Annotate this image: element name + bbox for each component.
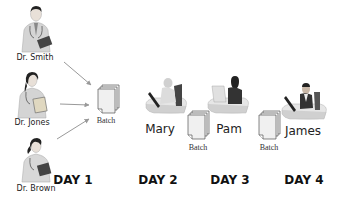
batch-label: Batch [97, 116, 116, 125]
worker-label: Pam [216, 122, 242, 136]
worker-label: Mary [145, 122, 175, 136]
batch-label: Batch [260, 143, 279, 152]
day-label: DAY 3 [210, 173, 249, 187]
worker-label: James [285, 124, 321, 138]
worker-at-desk-icon [144, 76, 188, 116]
day-label: DAY 1 [53, 173, 92, 187]
batch-label: Batch [189, 143, 208, 152]
day-label: DAY 2 [138, 173, 177, 187]
worker-at-desk-icon [280, 82, 328, 122]
document-stack-icon [257, 110, 281, 140]
worker-at-desk-icon [206, 76, 250, 116]
day-label: DAY 4 [284, 173, 323, 187]
document-stack-icon [96, 84, 120, 114]
